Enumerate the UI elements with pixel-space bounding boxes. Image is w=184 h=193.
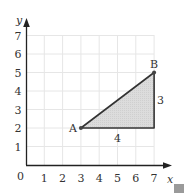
x-axis-label: x xyxy=(167,173,174,186)
origin-label: 0 xyxy=(17,170,24,183)
horizontal-side-label: 4 xyxy=(114,132,121,145)
svg-text:1: 1 xyxy=(41,172,48,185)
point-b-label: B xyxy=(150,58,158,71)
svg-text:7: 7 xyxy=(15,30,22,43)
svg-text:6: 6 xyxy=(132,172,139,185)
svg-text:2: 2 xyxy=(59,172,66,185)
svg-text:5: 5 xyxy=(15,67,22,80)
svg-text:2: 2 xyxy=(15,122,22,135)
corner-tab xyxy=(174,184,184,193)
svg-text:1: 1 xyxy=(15,141,22,154)
svg-text:3: 3 xyxy=(77,172,84,185)
svg-text:4: 4 xyxy=(96,172,103,185)
point-a-label: A xyxy=(68,122,78,135)
coordinate-diagram: y x 0 1 2 3 4 5 6 7 1 2 3 4 5 6 7 A B 4 … xyxy=(0,0,184,193)
svg-text:6: 6 xyxy=(15,48,22,61)
x-axis-arrow-icon xyxy=(163,162,172,169)
svg-text:5: 5 xyxy=(114,172,121,185)
point-b-marker xyxy=(152,71,156,75)
svg-text:3: 3 xyxy=(15,104,22,117)
svg-text:4: 4 xyxy=(15,85,22,98)
y-axis-label: y xyxy=(15,14,23,27)
svg-text:7: 7 xyxy=(151,172,158,185)
vertical-side-label: 3 xyxy=(157,94,164,107)
point-a-marker xyxy=(79,126,83,130)
y-axis-arrow-icon xyxy=(23,18,30,27)
y-tick-labels: 1 2 3 4 5 6 7 xyxy=(15,30,22,154)
x-tick-labels: 1 2 3 4 5 6 7 xyxy=(41,172,158,185)
